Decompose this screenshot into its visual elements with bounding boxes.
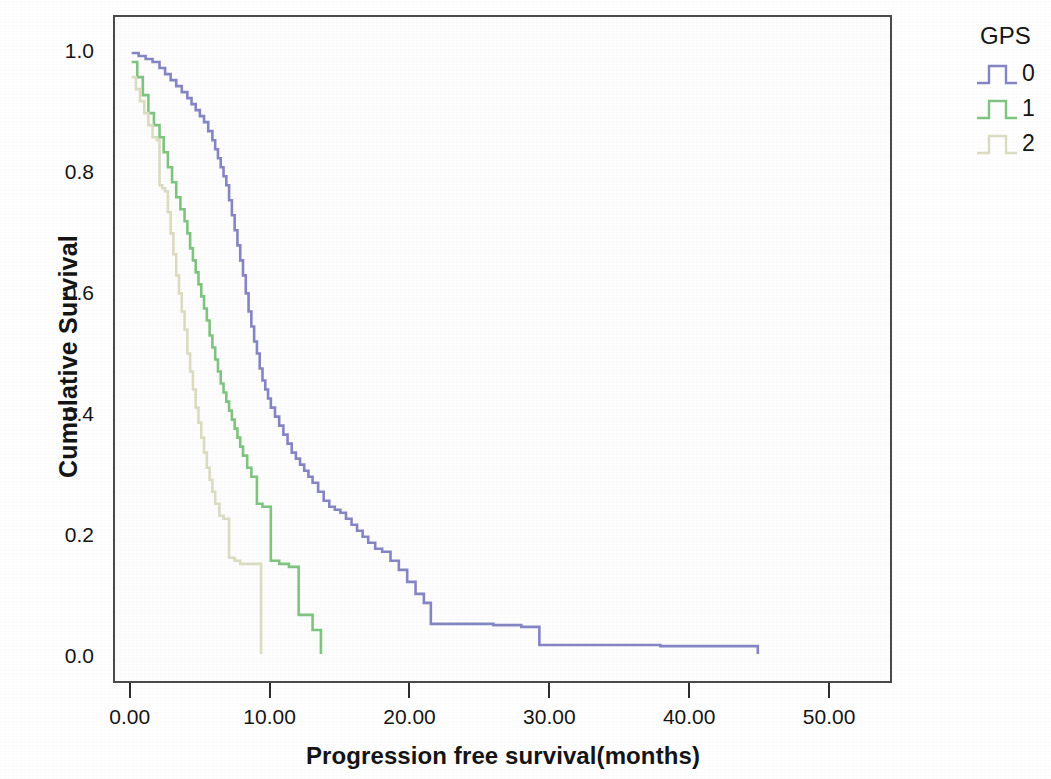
legend-item-label: 0 [1022,62,1035,85]
legend-swatch-path [977,136,1017,153]
plot-area [113,15,892,683]
legend-item-label: 2 [1022,132,1035,155]
legend-title: GPS [980,22,1051,50]
y-axis-tick-label: 0.0 [18,644,94,668]
legend-swatch-step-icon [975,94,1019,124]
legend-item-label: 1 [1022,97,1035,120]
legend-item-gps-0[interactable]: 0 [975,56,1051,91]
legend-item-gps-2[interactable]: 2 [975,126,1051,161]
y-axis-tick-label: 0.8 [18,160,94,184]
x-axis-tick-label: 0.00 [70,705,190,729]
x-axis-tick-label: 50.00 [769,705,889,729]
x-axis-tick-mark [129,683,131,698]
x-axis-title: Progression free survival(months) [113,742,893,770]
x-axis-tick-mark [548,683,550,698]
y-axis-tick-label: 1.0 [18,39,94,63]
legend: GPS 012 [975,22,1051,161]
x-axis-tick-label: 20.00 [349,705,469,729]
legend-swatch-step-icon [975,59,1019,89]
x-axis-tick-label: 30.00 [489,705,609,729]
survival-curve-gps-2 [132,77,261,654]
legend-swatch-step-icon [975,129,1019,159]
legend-swatch-path [977,101,1017,118]
y-axis-title: Cumulative Survival [54,197,83,517]
x-axis-tick-mark [828,683,830,698]
legend-swatch-path [977,66,1017,83]
legend-items: 012 [975,56,1051,161]
x-axis-tick-mark [269,683,271,698]
y-axis-tick-label: 0.2 [18,523,94,547]
legend-item-gps-1[interactable]: 1 [975,91,1051,126]
y-axis-tick-label: 0.6 [18,281,94,305]
survival-curve-gps-0 [132,53,758,654]
y-axis-tick-label: 0.4 [18,402,94,426]
x-axis-tick-label: 40.00 [629,705,749,729]
survival-curves-svg [115,17,890,681]
x-axis-tick-label: 10.00 [210,705,330,729]
x-axis-tick-mark [688,683,690,698]
x-axis-tick-mark [408,683,410,698]
kaplan-meier-survival-figure: Cumulative Survival 0.00.20.40.60.81.0 0… [0,0,1051,779]
